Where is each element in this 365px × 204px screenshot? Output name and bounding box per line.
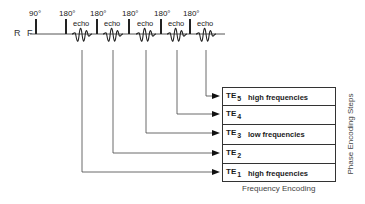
kspace-row-te3: TE3low frequencies <box>223 125 335 145</box>
echo-arrow-line <box>82 50 213 172</box>
te-index: 1 <box>237 171 241 178</box>
kspace-row-te4: TE4 <box>223 106 335 125</box>
te-label: TE3 <box>226 128 241 139</box>
echo-label: echo <box>168 20 184 28</box>
pulse-angle-label: 180° <box>90 10 107 18</box>
echo-arrow-line <box>113 50 213 153</box>
frequency-description: high frequencies <box>248 93 308 102</box>
echo-arrow-line <box>146 50 213 133</box>
arrow-head-icon <box>212 150 220 156</box>
echo-arrow-line <box>206 50 213 96</box>
frequency-encoding-label: Frequency Encoding <box>242 184 315 193</box>
pulse-angle-label: 180° <box>122 10 139 18</box>
te-text: TE <box>226 91 236 100</box>
kspace-row-te1: TE1high frequencies <box>223 164 335 183</box>
echo-signals <box>72 28 216 41</box>
pulse-angle-label: 180° <box>154 10 171 18</box>
echo-waveform <box>72 28 92 41</box>
te-label: TE2 <box>226 148 241 159</box>
pulse-angle-label: 180° <box>59 10 76 18</box>
echo-waveform <box>167 28 187 41</box>
rf-label: R F <box>14 28 35 38</box>
echo-waveform <box>196 28 216 41</box>
kspace-row-te5: TE5high frequencies <box>223 88 335 106</box>
te-index: 4 <box>237 113 241 120</box>
echo-waveform <box>136 28 156 41</box>
arrow-head-icon <box>212 169 220 175</box>
arrow-head-icon <box>212 130 220 136</box>
te-text: TE <box>226 109 236 118</box>
te-index: 5 <box>237 95 241 102</box>
kspace-row-te2: TE2 <box>223 145 335 164</box>
te-text: TE <box>226 167 236 176</box>
te-text: TE <box>226 128 236 137</box>
te-label: TE4 <box>226 109 241 120</box>
kspace-box: TE5high frequenciesTE4TE3low frequencies… <box>222 87 336 182</box>
echo-arrow-line <box>177 50 213 114</box>
frequency-description: low frequencies <box>248 130 305 139</box>
frequency-description: high frequencies <box>248 169 308 178</box>
phase-encoding-label: Phase Encoding Steps <box>346 94 355 175</box>
te-label: TE1 <box>226 167 241 178</box>
echo-label: echo <box>73 20 89 28</box>
te-label: TE5 <box>226 91 241 102</box>
te-index: 3 <box>237 132 241 139</box>
te-text: TE <box>226 148 236 157</box>
echo-to-kspace-arrows <box>82 50 220 175</box>
echo-label: echo <box>197 20 213 28</box>
echo-label: echo <box>104 20 120 28</box>
te-index: 2 <box>237 152 241 159</box>
echo-waveform <box>103 28 123 41</box>
arrow-head-icon <box>212 111 220 117</box>
pulse-angle-label: 180° <box>183 10 200 18</box>
echo-label: echo <box>137 20 153 28</box>
pulse-angle-label: 90° <box>29 10 41 18</box>
arrow-head-icon <box>212 93 220 99</box>
